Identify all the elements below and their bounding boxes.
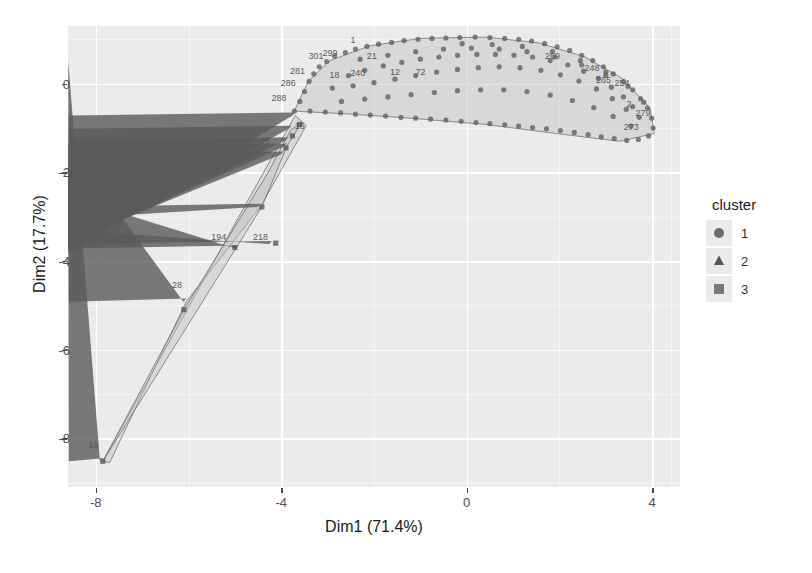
data-point [558,128,563,133]
point-label: 18 [330,70,340,80]
legend-label: 1 [741,226,748,241]
x-tick-mark [96,488,97,493]
data-point [641,100,646,105]
point-label: 1 [351,35,356,45]
data-point [455,88,460,93]
x-tick-mark [652,488,653,493]
point-label: 15 [260,136,270,146]
data-point [487,121,492,126]
triangle-icon [714,256,724,266]
point-label: 301 [308,51,323,61]
data-point [630,87,635,92]
legend-key-circle-icon [706,220,732,246]
point-label: 194 [211,232,226,242]
data-point [415,37,420,42]
x-axis-title: Dim1 (71.4%) [68,518,680,536]
data-point [353,47,358,52]
data-point [460,41,465,46]
data-point [530,125,535,130]
data-point [529,39,534,44]
data-point [611,71,616,76]
data-point [530,54,535,59]
data-point [591,105,596,110]
data-point [307,79,312,84]
data-point [232,245,237,250]
legend-title: cluster [712,196,806,213]
point-label: 279 [635,108,650,118]
point-label: 72 [415,67,425,77]
data-point [338,110,343,115]
point-label: 254 [614,78,629,88]
data-point [371,80,376,85]
data-point [362,97,367,102]
data-point [502,36,507,41]
data-point [612,136,617,141]
data-point [455,53,460,58]
point-label: 240 [350,68,365,78]
data-point [520,44,525,49]
legend-item-1[interactable]: 1 [706,220,806,246]
data-point [501,87,506,92]
data-point [455,67,460,72]
data-point [307,109,312,114]
data-point [330,86,335,91]
data-point [100,459,105,464]
data-point [516,124,521,129]
data-point [610,96,615,101]
data-point [497,47,502,52]
data-point [398,115,403,120]
legend-label: 3 [741,282,748,297]
data-point [368,113,373,118]
x-tick-mark [281,488,282,493]
cluster-points-2 [68,61,295,462]
x-tick-label: -8 [90,495,102,510]
point-label: 18 [88,440,98,450]
data-point [502,122,507,127]
data-point [636,137,641,142]
data-point [339,99,344,104]
data-point [351,83,356,88]
square-icon [714,284,724,294]
data-point [609,85,614,90]
data-point [381,63,386,68]
data-point [443,35,448,40]
data-point [497,64,502,69]
data-point [302,89,307,94]
legend-item-2[interactable]: 2 [706,248,806,274]
data-point [385,94,390,99]
point-label: 21 [367,51,377,61]
data-point [646,133,651,138]
data-point [459,119,464,124]
legend-key-triangle-icon [706,248,732,274]
data-point [469,46,474,51]
data-point [259,204,264,209]
data-point [353,112,358,117]
data-point [578,58,583,63]
x-tick-label: 0 [463,495,470,510]
data-point [429,36,434,41]
data-point [624,138,629,143]
circle-icon [714,228,724,238]
data-point [413,116,418,121]
data-point [517,65,522,70]
y-tick-label: -2 [58,165,70,180]
data-point [599,134,604,139]
data-point [586,132,591,137]
data-point [594,86,599,91]
data-point [490,42,495,47]
data-point [364,44,369,49]
data-point [548,93,553,98]
data-point [558,72,563,77]
legend-item-3[interactable]: 3 [706,276,806,302]
point-label: 218 [253,232,268,242]
cluster-hull-1 [294,37,654,141]
data-point [611,114,616,119]
data-point [392,77,397,82]
y-tick-label: -6 [58,342,70,357]
data-point [317,64,322,69]
data-point [651,125,656,130]
data-point [476,65,481,70]
data-point [567,48,572,53]
cluster-scatter-figure: 2882862813012991212401812722692482652542… [0,0,812,573]
data-point [621,94,626,99]
